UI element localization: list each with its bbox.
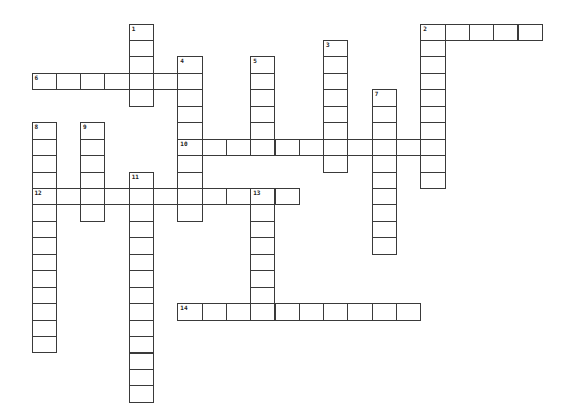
crossword-cell[interactable] (420, 172, 445, 189)
crossword-cell[interactable] (250, 139, 275, 156)
crossword-cell[interactable] (80, 73, 105, 90)
crossword-cell[interactable] (226, 139, 251, 156)
crossword-cell[interactable]: 11 (129, 172, 154, 189)
crossword-cell[interactable] (129, 353, 154, 370)
crossword-cell[interactable] (129, 336, 154, 353)
crossword-cell[interactable] (226, 303, 251, 320)
crossword-cell[interactable] (177, 172, 202, 189)
crossword-cell[interactable] (250, 204, 275, 221)
crossword-cell[interactable]: 13 (250, 188, 275, 205)
crossword-cell[interactable] (275, 188, 300, 205)
crossword-cell[interactable] (32, 254, 57, 271)
crossword-cell[interactable] (177, 204, 202, 221)
crossword-cell[interactable] (250, 287, 275, 304)
crossword-cell[interactable]: 5 (250, 56, 275, 73)
crossword-cell[interactable] (323, 155, 348, 172)
crossword-cell[interactable] (129, 287, 154, 304)
crossword-cell[interactable] (323, 106, 348, 123)
crossword-cell[interactable] (32, 139, 57, 156)
crossword-cell[interactable] (177, 106, 202, 123)
crossword-cell[interactable] (275, 139, 300, 156)
crossword-cell[interactable] (202, 188, 227, 205)
crossword-cell[interactable] (250, 254, 275, 271)
crossword-cell[interactable] (32, 237, 57, 254)
crossword-cell[interactable] (275, 303, 300, 320)
crossword-cell[interactable] (32, 303, 57, 320)
crossword-cell[interactable] (420, 122, 445, 139)
crossword-cell[interactable]: 14 (177, 303, 202, 320)
crossword-cell[interactable] (420, 139, 445, 156)
crossword-cell[interactable] (347, 139, 372, 156)
crossword-cell[interactable] (80, 139, 105, 156)
crossword-cell[interactable] (323, 89, 348, 106)
crossword-cell[interactable] (372, 155, 397, 172)
crossword-cell[interactable] (323, 303, 348, 320)
crossword-cell[interactable] (177, 73, 202, 90)
crossword-cell[interactable] (420, 106, 445, 123)
crossword-cell[interactable] (32, 221, 57, 238)
crossword-cell[interactable]: 4 (177, 56, 202, 73)
crossword-cell[interactable] (80, 155, 105, 172)
crossword-cell[interactable] (372, 237, 397, 254)
crossword-cell[interactable] (250, 73, 275, 90)
crossword-cell[interactable] (493, 24, 518, 41)
crossword-cell[interactable] (372, 106, 397, 123)
crossword-cell[interactable] (56, 188, 81, 205)
crossword-cell[interactable] (153, 188, 178, 205)
crossword-cell[interactable] (250, 221, 275, 238)
crossword-cell[interactable] (129, 56, 154, 73)
crossword-cell[interactable] (129, 89, 154, 106)
crossword-cell[interactable] (347, 303, 372, 320)
crossword-cell[interactable] (129, 385, 154, 402)
crossword-cell[interactable] (32, 320, 57, 337)
crossword-cell[interactable]: 12 (32, 188, 57, 205)
crossword-cell[interactable] (323, 139, 348, 156)
crossword-cell[interactable] (32, 155, 57, 172)
crossword-cell[interactable] (372, 221, 397, 238)
crossword-cell[interactable] (80, 172, 105, 189)
crossword-cell[interactable] (129, 270, 154, 287)
crossword-cell[interactable] (420, 155, 445, 172)
crossword-cell[interactable] (129, 254, 154, 271)
crossword-cell[interactable] (177, 188, 202, 205)
crossword-cell[interactable] (372, 204, 397, 221)
crossword-cell[interactable] (202, 303, 227, 320)
crossword-cell[interactable] (250, 270, 275, 287)
crossword-cell[interactable]: 2 (420, 24, 445, 41)
crossword-cell[interactable] (129, 204, 154, 221)
crossword-cell[interactable] (56, 73, 81, 90)
crossword-cell[interactable]: 6 (32, 73, 57, 90)
crossword-cell[interactable] (469, 24, 494, 41)
crossword-cell[interactable] (32, 287, 57, 304)
crossword-cell[interactable] (323, 122, 348, 139)
crossword-cell[interactable] (323, 56, 348, 73)
crossword-cell[interactable] (104, 188, 129, 205)
crossword-cell[interactable] (32, 270, 57, 287)
crossword-cell[interactable] (396, 139, 421, 156)
crossword-cell[interactable]: 8 (32, 122, 57, 139)
crossword-cell[interactable] (299, 303, 324, 320)
crossword-cell[interactable] (129, 237, 154, 254)
crossword-cell[interactable] (372, 139, 397, 156)
crossword-cell[interactable] (129, 221, 154, 238)
crossword-cell[interactable] (32, 204, 57, 221)
crossword-cell[interactable] (250, 89, 275, 106)
crossword-cell[interactable] (518, 24, 543, 41)
crossword-cell[interactable]: 1 (129, 24, 154, 41)
crossword-cell[interactable] (32, 172, 57, 189)
crossword-cell[interactable] (153, 73, 178, 90)
crossword-cell[interactable] (299, 139, 324, 156)
crossword-cell[interactable] (80, 204, 105, 221)
crossword-cell[interactable] (129, 73, 154, 90)
crossword-cell[interactable] (177, 89, 202, 106)
crossword-cell[interactable] (372, 303, 397, 320)
crossword-cell[interactable] (129, 303, 154, 320)
crossword-cell[interactable] (80, 188, 105, 205)
crossword-cell[interactable]: 9 (80, 122, 105, 139)
crossword-cell[interactable]: 3 (323, 40, 348, 57)
crossword-cell[interactable] (250, 106, 275, 123)
crossword-cell[interactable] (396, 303, 421, 320)
crossword-cell[interactable] (323, 73, 348, 90)
crossword-cell[interactable] (129, 188, 154, 205)
crossword-cell[interactable] (420, 89, 445, 106)
